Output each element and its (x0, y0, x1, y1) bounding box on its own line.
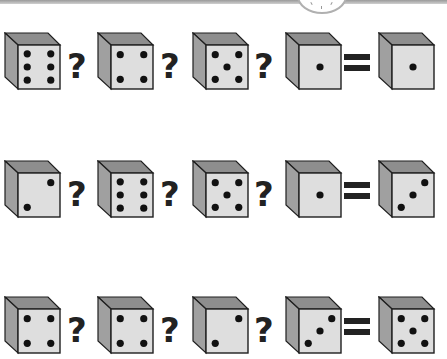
equals-sign (344, 54, 370, 76)
question-mark-operator: ? (160, 313, 180, 347)
die (192, 296, 252, 358)
clock-icon (297, 0, 347, 14)
die (97, 296, 157, 358)
question-mark-operator: ? (67, 49, 87, 83)
question-mark-operator: ? (254, 177, 274, 211)
die (285, 160, 345, 222)
puzzle-row-3: ??? (0, 296, 447, 359)
puzzle-row-1: ??? (0, 32, 447, 102)
puzzle-row-2: ??? (0, 160, 447, 230)
die (4, 32, 64, 94)
die (285, 296, 345, 358)
die (4, 160, 64, 222)
die (4, 296, 64, 358)
question-mark-operator: ? (160, 177, 180, 211)
question-mark-operator: ? (254, 313, 274, 347)
die (192, 160, 252, 222)
die (97, 32, 157, 94)
top-border-bar (0, 0, 447, 4)
die (97, 160, 157, 222)
equals-sign (344, 318, 370, 340)
question-mark-operator: ? (67, 313, 87, 347)
question-mark-operator: ? (67, 177, 87, 211)
die (192, 32, 252, 94)
question-mark-operator: ? (160, 49, 180, 83)
equals-sign (344, 182, 370, 204)
result-die (378, 32, 438, 94)
result-die (378, 160, 438, 222)
question-mark-operator: ? (254, 49, 274, 83)
result-die (378, 296, 438, 358)
die (285, 32, 345, 94)
